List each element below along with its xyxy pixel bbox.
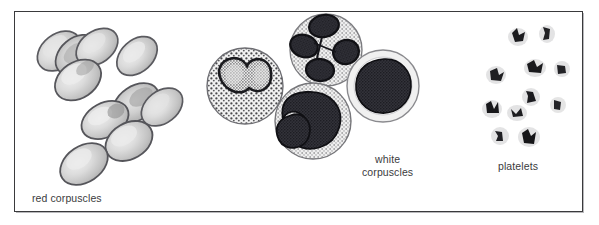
platelet bbox=[524, 59, 546, 77]
group-white-corpuscles: whitecorpuscles bbox=[185, 12, 425, 211]
label-white-corpuscles: whitecorpuscles bbox=[362, 153, 413, 178]
white-corpuscle-monocyte bbox=[275, 83, 351, 159]
red-corpuscle-field bbox=[15, 12, 205, 211]
platelet bbox=[550, 97, 566, 113]
group-red-corpuscles: red corpuscles bbox=[15, 12, 205, 211]
group-platelets: platelets bbox=[470, 12, 584, 211]
label-white-line-1: white bbox=[375, 153, 400, 165]
label-red-corpuscles: red corpuscles bbox=[32, 192, 102, 205]
label-white-line-2: corpuscles bbox=[362, 166, 413, 178]
white-corpuscle-granulocyte bbox=[207, 48, 283, 124]
platelet bbox=[507, 105, 527, 121]
platelet-field bbox=[470, 12, 584, 211]
platelet bbox=[539, 25, 555, 43]
white-corpuscle-lymphocyte bbox=[347, 50, 419, 122]
platelet bbox=[486, 66, 506, 84]
platelet bbox=[522, 88, 540, 106]
figure-frame: red corpuscles bbox=[14, 11, 583, 212]
platelet bbox=[508, 28, 528, 46]
label-platelets: platelets bbox=[498, 160, 538, 173]
platelet bbox=[482, 100, 502, 118]
platelet bbox=[491, 127, 509, 145]
platelet bbox=[554, 61, 570, 77]
blood-cell-figure: red corpuscles bbox=[0, 0, 599, 225]
white-corpuscle-field bbox=[185, 12, 425, 211]
platelet bbox=[518, 127, 540, 147]
